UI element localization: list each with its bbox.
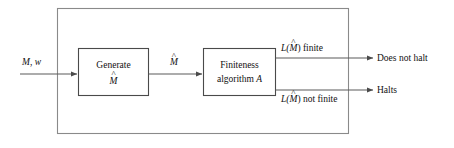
finite-condition-label: L(^M) finite xyxy=(281,44,323,54)
finiteness-box-line2: algorithm A xyxy=(203,74,276,86)
not-finite-condition-suffix: ) not finite xyxy=(297,94,337,104)
input-string-symbol: w xyxy=(35,57,41,67)
finite-condition-hat-accent: ^ xyxy=(289,38,297,47)
outcome-halts-label: Halts xyxy=(377,86,397,96)
generate-box-line2: ^M xyxy=(78,76,149,88)
finiteness-box-text: Finiteness algorithm A xyxy=(203,60,276,86)
finite-condition-suffix: ) finite xyxy=(297,43,323,53)
flowchart-diagram: M, w Generate ^M Finiteness algorithm A … xyxy=(0,0,454,148)
generate-box-text: Generate ^M xyxy=(78,60,149,88)
input-machine-symbol: M xyxy=(22,57,30,67)
generate-hat-accent: ^ xyxy=(110,70,118,79)
finiteness-algorithm-word: algorithm xyxy=(217,74,254,84)
intermediate-label: ^M xyxy=(170,58,178,68)
intermediate-hat-accent: ^ xyxy=(170,52,178,61)
input-label: M, w xyxy=(22,58,41,68)
not-finite-condition-hat-accent: ^ xyxy=(289,89,297,98)
not-finite-condition-label: L(^M) not finite xyxy=(281,95,337,105)
finiteness-algorithm-symbol: A xyxy=(256,74,262,84)
input-separator: , xyxy=(30,57,32,67)
outcome-does-not-halt-label: Does not halt xyxy=(377,54,428,64)
finiteness-box-line1: Finiteness xyxy=(203,60,276,72)
